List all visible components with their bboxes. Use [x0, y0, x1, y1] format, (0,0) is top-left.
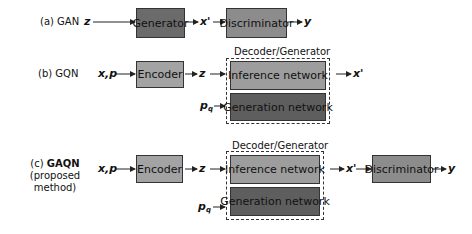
var-p-q: pq — [200, 100, 213, 115]
row-label-gaqn: (c) GAQN (proposed method) — [10, 158, 100, 194]
row-label-gqn: (b) GQN — [38, 68, 98, 80]
inference-network-block: Inference network — [230, 155, 320, 184]
discriminator-block: Discriminator — [372, 155, 431, 183]
generator-block: Generator — [136, 8, 185, 38]
decoder-generator-title: Decoder/Generator — [234, 46, 330, 57]
var-p-q: pq — [198, 201, 211, 216]
inference-network-block: Inference network — [230, 61, 326, 90]
encoder-block: Encoder — [136, 61, 184, 88]
var-y: y — [304, 16, 311, 28]
var-y: y — [448, 163, 455, 175]
generation-network-block: Generation network — [230, 93, 326, 121]
var-x-p: x,p — [98, 68, 117, 80]
var-x-p: x,p — [98, 163, 117, 175]
var-z: z — [199, 68, 205, 80]
var-x-prime: x' — [353, 68, 363, 80]
generation-network-block: Generation network — [230, 187, 320, 216]
discriminator-block: Discriminator — [226, 8, 287, 38]
row-label-gan: (a) GAN — [40, 16, 100, 28]
var-x-prime: x' — [200, 16, 210, 28]
decoder-generator-title: Decoder/Generator — [232, 140, 328, 151]
var-x-prime: x' — [346, 163, 356, 175]
encoder-block: Encoder — [136, 155, 183, 183]
var-z: z — [199, 163, 205, 175]
var-z: z — [84, 16, 90, 28]
